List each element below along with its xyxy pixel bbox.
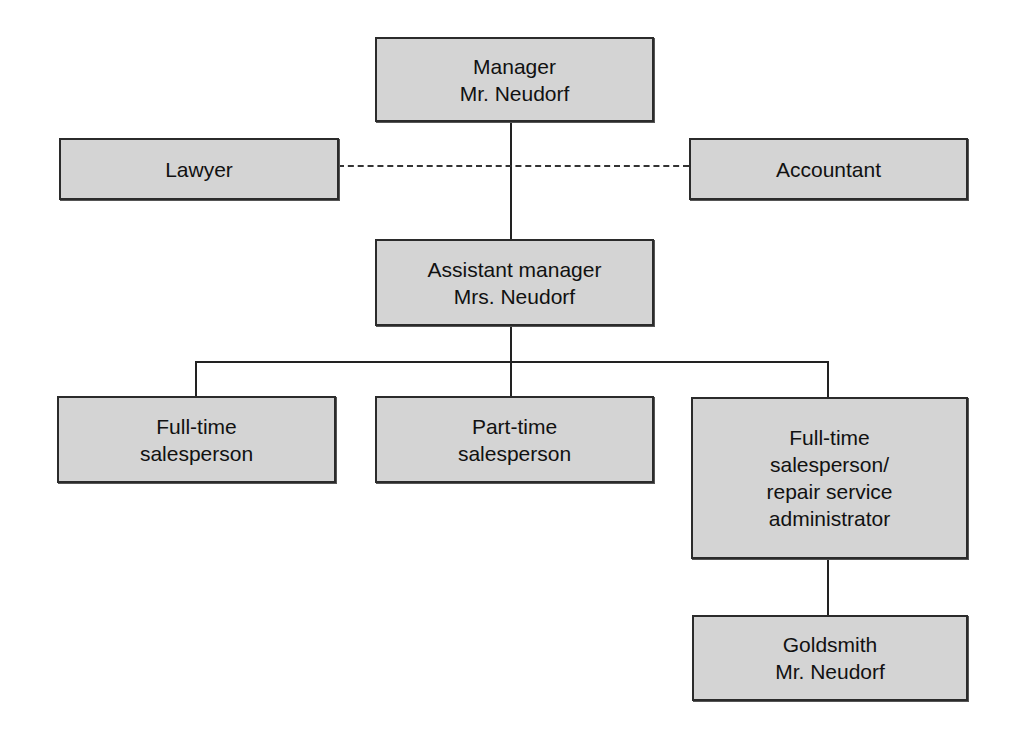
dashed-advisor-connector xyxy=(338,165,689,167)
connector-to-repair xyxy=(827,361,829,397)
node-label: Goldsmith xyxy=(775,631,885,658)
node-label: Accountant xyxy=(776,156,881,183)
node-manager: Manager Mr. Neudorf xyxy=(375,37,654,122)
node-label: repair service xyxy=(766,478,892,505)
node-assistant-manager: Assistant manager Mrs. Neudorf xyxy=(375,239,654,326)
node-full-time-repair-administrator: Full-time salesperson/ repair service ad… xyxy=(691,397,968,559)
node-label: Mr. Neudorf xyxy=(460,80,570,107)
node-full-time-salesperson: Full-time salesperson xyxy=(57,396,336,483)
org-chart: Manager Mr. Neudorf Lawyer Accountant As… xyxy=(0,0,1017,738)
connector-to-full-time xyxy=(195,361,197,396)
node-accountant: Accountant xyxy=(689,138,968,200)
node-lawyer: Lawyer xyxy=(59,138,339,200)
node-label: administrator xyxy=(766,505,892,532)
node-label: Mrs. Neudorf xyxy=(428,283,602,310)
node-label: Part-time xyxy=(458,413,571,440)
node-label: salesperson/ xyxy=(766,451,892,478)
node-label: Full-time xyxy=(766,424,892,451)
node-label: Manager xyxy=(460,53,570,80)
node-label: Mr. Neudorf xyxy=(775,658,885,685)
node-goldsmith: Goldsmith Mr. Neudorf xyxy=(692,615,968,701)
node-label: salesperson xyxy=(140,440,253,467)
connector-repair-to-goldsmith xyxy=(827,558,829,615)
node-label: Assistant manager xyxy=(428,256,602,283)
node-label: salesperson xyxy=(458,440,571,467)
connector-staff-bar xyxy=(195,361,829,363)
node-label: Full-time xyxy=(140,413,253,440)
node-label: Lawyer xyxy=(165,156,233,183)
node-part-time-salesperson: Part-time salesperson xyxy=(375,396,654,483)
connector-manager-to-assistant xyxy=(510,121,512,239)
